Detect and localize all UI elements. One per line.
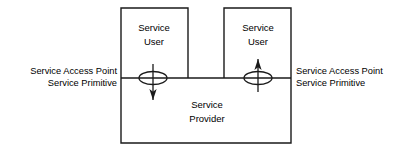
left-service-primitive-connector <box>139 64 167 100</box>
left-service-primitive-label: Service Primitive <box>48 78 117 88</box>
right-service-user-label-line2: User <box>248 36 268 47</box>
diagram-canvas: Service User Service User Service Provid… <box>0 0 408 152</box>
service-provider-label-line2: Provider <box>189 113 224 124</box>
right-service-user-label-line1: Service <box>242 22 274 33</box>
left-service-access-point-label: Service Access Point <box>30 66 117 76</box>
left-service-user-label-line2: User <box>144 36 164 47</box>
right-service-primitive-connector <box>244 59 272 92</box>
service-model-diagram: Service User Service User Service Provid… <box>0 0 408 152</box>
service-provider-box <box>121 78 291 143</box>
right-service-primitive-label: Service Primitive <box>296 78 365 88</box>
service-provider-label-line1: Service <box>191 99 223 110</box>
right-service-access-point-label: Service Access Point <box>296 66 383 76</box>
left-service-user-label-line1: Service <box>138 22 170 33</box>
